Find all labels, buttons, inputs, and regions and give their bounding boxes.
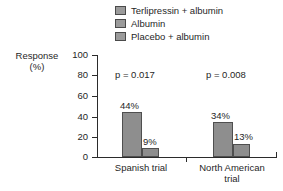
bar-spanish-albumin [142,148,159,157]
y-tick-label-20-wrap: 20 [64,132,88,142]
bar-value-label-northamerican-placebo: 13% [234,131,253,142]
group-label-line1: North American [199,162,264,173]
bar-value-label-spanish-terlipressin: 44% [120,100,139,111]
y-tick-label-40-wrap: 40 [64,112,88,122]
x-axis-line [97,157,277,158]
bar-northamerican-placebo [233,144,250,157]
plot-area: 100 80 60 40 20 0 44% 9% p = 0.017 Spani… [0,0,283,191]
bar-value-label-spanish-albumin: 9% [143,136,157,147]
y-tick-mark [92,96,97,97]
bar-spanish-terlipressin [122,112,142,157]
bar-chart-figure: Terlipressin + albumin Albumin Placebo +… [0,0,283,191]
x-axis-group-label-northamerican: North American trial [187,162,277,184]
y-tick-mark [92,137,97,138]
y-tick-label: 40 [64,112,88,122]
y-tick-mark [92,55,97,56]
x-axis-group-label-spanish: Spanish trial [96,162,186,173]
y-tick-mark [92,157,97,158]
y-tick-label-0-wrap: 0 [64,152,88,162]
y-tick-label-100-wrap: 100 [64,50,88,60]
y-tick-mark [92,75,97,76]
pvalue-annotation-spanish: p = 0.017 [115,69,155,80]
group-label-line2: trial [187,173,277,184]
y-tick-label: 20 [64,132,88,142]
bar-value-label-northamerican-terlipressin: 34% [211,110,230,121]
y-tick-label: 100 [64,50,88,60]
y-tick-mark [92,117,97,118]
group-label-line1: Spanish trial [115,162,167,173]
y-tick-label-80-wrap: 80 [64,70,88,80]
y-axis-line [97,55,98,158]
y-tick-label: 0 [64,152,88,162]
bar-northamerican-terlipressin [213,122,233,157]
x-axis-end-tick [276,152,277,157]
y-tick-label-60-wrap: 60 [64,91,88,101]
pvalue-annotation-northamerican: p = 0.008 [206,69,246,80]
y-tick-label: 80 [64,70,88,80]
y-tick-label: 60 [64,91,88,101]
